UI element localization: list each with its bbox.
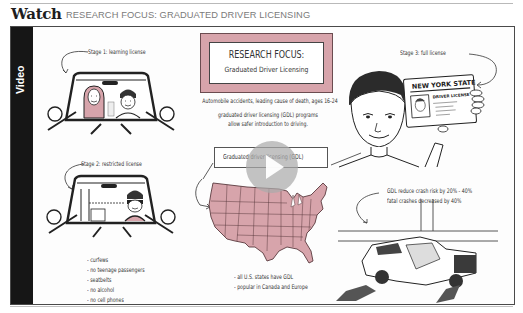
header-divider xyxy=(10,3,513,4)
curved-arrow-icon xyxy=(55,47,90,75)
car-stage2-illustration xyxy=(45,175,177,237)
intro-text-line2: graduated driver licensing (GDL) program… xyxy=(198,111,337,119)
intro-text-line1: Automobile accidents, leading cause of d… xyxy=(192,97,348,105)
title-card-heading: RESEARCH FOCUS: xyxy=(221,49,311,60)
video-label: Video xyxy=(14,26,26,58)
restriction-item: - no cell phones xyxy=(87,296,124,304)
map-note: - all U.S. states have GDL xyxy=(234,273,293,281)
section-label: Watch xyxy=(11,5,62,23)
map-note: - popular in Canada and Europe xyxy=(234,283,308,291)
us-map-illustration xyxy=(207,181,332,265)
crash-note: fatal crashes decreased by 40% xyxy=(387,197,461,205)
restriction-item: - seatbelts xyxy=(87,276,111,284)
restriction-item: - no teenage passengers xyxy=(87,266,145,274)
page-title: RESEARCH FOCUS: GRADUATED DRIVER LICENSI… xyxy=(66,10,310,20)
restriction-item: - curfews xyxy=(87,256,108,264)
car-crash-illustration xyxy=(336,219,506,304)
teen-holding-license-illustration: NEW YORK STATE DRIVER LICENSE xyxy=(339,65,499,167)
title-card: RESEARCH FOCUS: Graduated Driver Licensi… xyxy=(200,33,333,93)
crash-note: GDL reduce crash risk by 20% - 40% xyxy=(387,187,472,195)
video-player[interactable]: Video Stage 1: learning license RESEARCH… xyxy=(10,26,515,305)
intro-text-line3: allow safer introduction to driving. xyxy=(198,120,337,128)
stage1-label: Stage 1: learning license xyxy=(88,48,146,56)
stage3-label: Stage 3: full license xyxy=(400,49,446,57)
footer-divider xyxy=(10,306,513,307)
play-button[interactable] xyxy=(246,141,298,193)
restriction-item: - no alcohol xyxy=(87,286,114,294)
stage2-label: Stage 2: restricted license xyxy=(81,160,142,168)
video-sidebar: Video xyxy=(11,27,33,304)
title-card-subheading: Graduated Driver Licensing xyxy=(218,65,314,74)
car-stage1-illustration xyxy=(46,72,176,134)
